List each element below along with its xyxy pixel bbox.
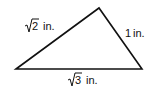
right-side-unit: in. <box>133 27 145 39</box>
bottom-side-unit: in. <box>86 74 98 86</box>
triangle <box>16 8 142 69</box>
left-side-unit: in. <box>43 20 55 32</box>
left-side-label: 2 in. <box>25 19 55 32</box>
left-side-radicand: 2 <box>32 20 38 32</box>
triangle-diagram: 2 in. 1 in. 3 in. <box>0 0 153 90</box>
bottom-side-radicand: 3 <box>75 74 81 86</box>
right-side-value: 1 <box>125 27 131 39</box>
bottom-side-label: 3 in. <box>68 73 98 86</box>
right-side-label: 1 in. <box>125 27 145 39</box>
